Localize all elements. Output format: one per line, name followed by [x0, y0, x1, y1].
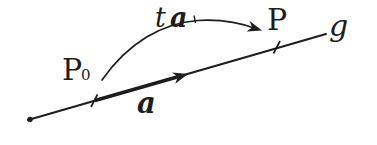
label-line-g: g — [329, 8, 348, 43]
label-point-p: P — [267, 2, 287, 37]
line-start-dot — [27, 117, 32, 122]
curved-arrow-ta-arrowhead — [247, 21, 264, 36]
stray-print-mark — [194, 16, 196, 24]
label-ta-coefficient: t — [155, 2, 166, 33]
label-ta-vector: a — [170, 2, 188, 33]
label-point-p0-subscript: 0 — [81, 66, 91, 84]
label-vector-a: a — [137, 86, 156, 120]
parametric-line-vector-diagram: P 0 P g t a a — [0, 0, 377, 145]
label-point-p0: P — [62, 52, 82, 87]
